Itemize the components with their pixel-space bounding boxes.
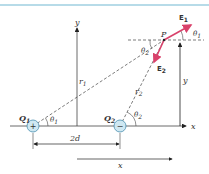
r1-label: r1 bbox=[79, 77, 87, 87]
electric-field-diagram: x y y r1 r2 θ1 θ2 θ2 θ1 E1 E2 P + Q1 − Q… bbox=[0, 0, 209, 174]
theta1-arc-q1 bbox=[46, 118, 49, 126]
theta1-label-q1: θ1 bbox=[50, 116, 58, 125]
theta2-label-p: θ2 bbox=[141, 47, 149, 56]
theta2-label-q2: θ2 bbox=[134, 111, 142, 120]
theta1-label-p: θ1 bbox=[193, 30, 201, 39]
theta2-arc-p bbox=[150, 40, 152, 49]
e2-label: E2 bbox=[157, 65, 166, 74]
separation-label: 2d bbox=[69, 134, 80, 143]
point-p-label: P bbox=[160, 30, 167, 39]
point-p bbox=[163, 39, 165, 41]
theta1-arc-p bbox=[181, 31, 183, 40]
charge-q2-label: Q2 bbox=[104, 113, 115, 124]
charge-q2-sign: − bbox=[117, 122, 124, 131]
charge-q1-label: Q1 bbox=[19, 113, 30, 124]
y-axis-label: y bbox=[74, 18, 80, 27]
x-distance-label: x bbox=[118, 161, 123, 170]
x-axis-label: x bbox=[191, 122, 196, 131]
e1-label: E1 bbox=[179, 14, 188, 23]
charge-q1-sign: + bbox=[30, 122, 37, 131]
e1-vector bbox=[164, 25, 191, 40]
y-height-label: y bbox=[182, 76, 188, 85]
